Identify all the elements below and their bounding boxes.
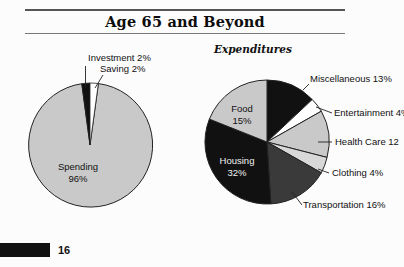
label-housing-value: 32% <box>227 167 247 178</box>
label-health-care: Health Care 12 <box>335 136 399 147</box>
label-saving: Saving 2% <box>100 63 146 74</box>
label-investment: Investment 2% <box>88 52 151 63</box>
leader-line-miscellaneous <box>303 84 309 90</box>
label-entertainment: Entertainment 4% <box>334 107 404 118</box>
label-spending-name: Spending <box>58 161 98 172</box>
label-miscellaneous: Miscellaneous 13% <box>310 73 392 84</box>
footer-black-bar <box>0 243 50 257</box>
label-clothing: Clothing 4% <box>332 167 384 178</box>
label-housing-name: Housing <box>220 155 255 166</box>
label-food-name: Food <box>231 103 253 114</box>
label-food-value: 15% <box>232 115 252 126</box>
title-rule-bottom <box>25 33 345 34</box>
label-transportation: Transportation 16% <box>303 199 386 210</box>
page-title: Age 65 and Beyond <box>25 11 345 32</box>
pie-chart-expenditures: Miscellaneous 13% Entertainment 4% Healt… <box>196 50 404 225</box>
label-spending-value: 96% <box>68 173 88 184</box>
page-number: 16 <box>58 244 70 256</box>
pie-chart-savings-allocation: Investment 2% Saving 2% Spending 96% <box>22 48 192 223</box>
document-page: Age 65 and Beyond Expenditures Investmen… <box>0 0 404 267</box>
